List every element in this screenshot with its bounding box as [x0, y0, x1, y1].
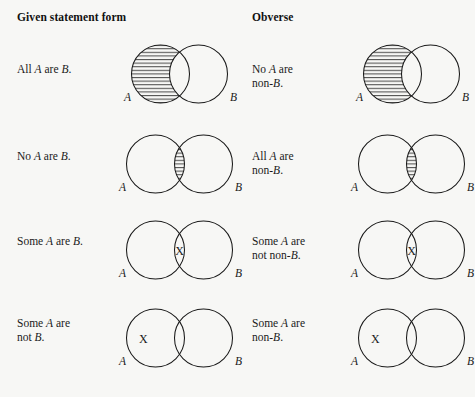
circle-b	[407, 309, 465, 367]
statement-row3-left: Some A are B.	[17, 234, 83, 248]
venn-diagram-row4-left: XAB	[108, 305, 243, 381]
circle-a	[359, 309, 417, 367]
x-mark: X	[407, 244, 416, 258]
venn-diagram-row3-right: XAB	[340, 217, 475, 293]
label-circle-a: A	[350, 267, 359, 279]
column-header-obverse: Obverse	[252, 11, 294, 23]
x-mark: X	[175, 244, 184, 258]
x-mark: X	[139, 332, 148, 346]
statement-row2-right: All A arenon-B.	[252, 149, 294, 177]
column-header-given-statement-form: Given statement form	[17, 11, 126, 23]
statement-row4-right: Some A arenon-B.	[252, 316, 305, 344]
venn-diagram-row4-right: XAB	[340, 305, 475, 381]
label-circle-a: A	[118, 355, 127, 367]
venn-diagram-row2-left: AB	[108, 131, 243, 207]
label-circle-b: B	[235, 267, 242, 279]
circle-a	[127, 309, 185, 367]
statement-row3-right: Some A arenot non-B.	[252, 234, 305, 262]
label-circle-b: B	[467, 267, 474, 279]
statement-row4-left: Some A arenot B.	[17, 316, 70, 344]
label-circle-b: B	[230, 91, 237, 103]
statement-row1-left: All A are B.	[17, 62, 71, 76]
label-circle-a: A	[350, 355, 359, 367]
venn-diagram-row1-left: AB	[108, 41, 243, 117]
label-circle-a: A	[123, 91, 132, 103]
label-circle-a: A	[118, 181, 127, 193]
venn-diagram-row1-right: AB	[340, 41, 475, 117]
venn-diagram-row2-right: AB	[340, 131, 475, 207]
label-circle-b: B	[235, 355, 242, 367]
label-circle-b: B	[235, 181, 242, 193]
x-mark: X	[371, 332, 380, 346]
statement-row2-left: No A are B.	[17, 149, 71, 163]
label-circle-a: A	[118, 267, 127, 279]
circle-b	[175, 309, 233, 367]
label-circle-b: B	[462, 91, 469, 103]
label-circle-a: A	[350, 181, 359, 193]
label-circle-b: B	[467, 181, 474, 193]
label-circle-a: A	[355, 91, 364, 103]
label-circle-b: B	[467, 355, 474, 367]
statement-row1-right: No A arenon-B.	[252, 62, 293, 90]
venn-obversion-figure: Given statement form Obverse All A are B…	[0, 0, 475, 397]
venn-diagram-row3-left: XAB	[108, 217, 243, 293]
